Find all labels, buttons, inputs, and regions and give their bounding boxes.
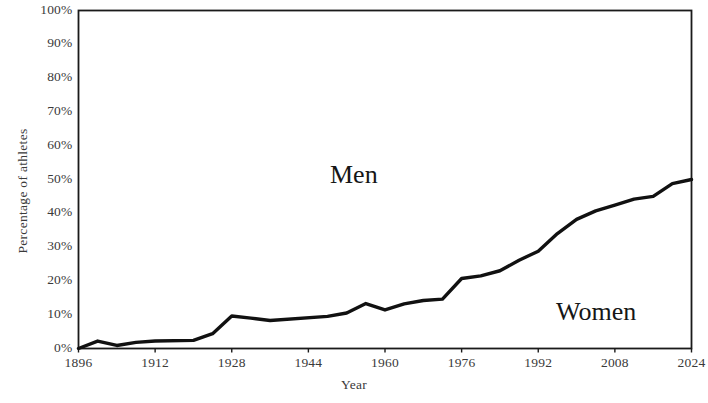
x-axis-tick-label: 2024 xyxy=(652,355,708,371)
y-axis-tick-label: 40% xyxy=(0,204,73,220)
y-axis-title: Percentage of athletes xyxy=(15,106,31,276)
y-axis-tick-label: 70% xyxy=(0,103,73,119)
x-axis-tick-label: 1960 xyxy=(345,355,425,371)
y-axis-tick-label: 10% xyxy=(0,306,73,322)
y-axis-tick-label: 90% xyxy=(0,35,73,51)
x-axis-tick-label: 1992 xyxy=(498,355,578,371)
y-axis-tick-label: 20% xyxy=(0,272,73,288)
x-axis-tick-label: 1896 xyxy=(39,355,119,371)
x-axis-tick-label: 1912 xyxy=(115,355,195,371)
y-axis-tick-label: 100% xyxy=(0,2,73,18)
y-axis-tick-label: 50% xyxy=(0,171,73,187)
y-axis-tick-label: 0% xyxy=(0,340,73,356)
x-axis-tick-label: 1928 xyxy=(192,355,272,371)
women-region-label: Women xyxy=(556,297,636,327)
chart-figure: 0%10%20%30%40%50%60%70%80%90%100% 189619… xyxy=(0,0,708,403)
x-axis-tick-label: 2008 xyxy=(575,355,655,371)
x-axis-tick-label: 1976 xyxy=(422,355,502,371)
chart-plot-area xyxy=(0,0,708,403)
y-axis-tick-label: 80% xyxy=(0,69,73,85)
y-axis-tick-label: 60% xyxy=(0,137,73,153)
x-axis-title: Year xyxy=(0,377,708,393)
y-axis-tick-label: 30% xyxy=(0,238,73,254)
men-region-label: Men xyxy=(330,160,378,190)
x-axis-tick-label: 1944 xyxy=(268,355,348,371)
